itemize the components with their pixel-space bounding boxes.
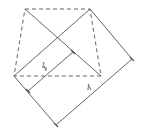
label-l1: l1 <box>42 62 48 72</box>
geometry-figure <box>0 0 146 136</box>
label-l: l <box>87 84 90 92</box>
diagonal-line-1 <box>25 9 101 76</box>
rect-side-left <box>14 76 56 125</box>
label-l1-subscript: 1 <box>45 66 48 72</box>
diagram-canvas: l1 l <box>0 0 146 136</box>
rect-side-bottom <box>56 59 132 125</box>
diagonal-line-2 <box>14 9 90 76</box>
label-l-text: l <box>87 83 90 92</box>
rect-side-right <box>90 9 132 59</box>
